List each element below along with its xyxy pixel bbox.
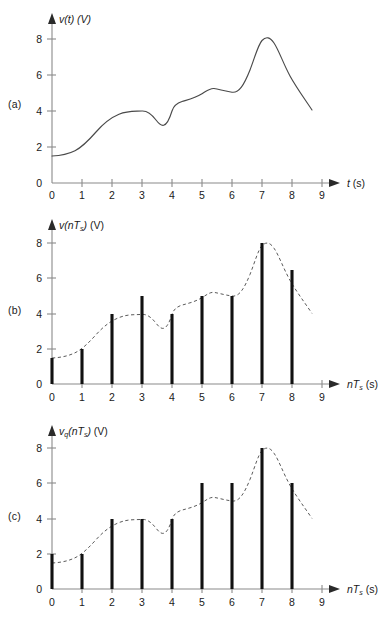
analog-signal-curve <box>52 38 312 156</box>
y-ticklabel-2: 2 <box>36 141 42 153</box>
x-ticklabel-8: 8 <box>289 189 295 201</box>
x-axis-arrow <box>329 179 340 187</box>
x-ticklabel-2: 2 <box>109 391 115 403</box>
panel-c: (c) 0 <box>0 412 390 621</box>
panel-b-x-ticklabels: 0 1 2 3 4 5 6 7 8 9 <box>49 391 325 403</box>
y-ticklabel-6: 6 <box>36 272 42 284</box>
panel-a: (a) <box>0 0 390 208</box>
y-axis-arrow <box>48 219 56 230</box>
x-ticklabel-0: 0 <box>49 189 55 201</box>
x-ticklabel-5: 5 <box>199 596 205 608</box>
y-ticklabel-8: 8 <box>36 442 42 454</box>
x-ticklabel-0: 0 <box>49 596 55 608</box>
x-ticklabel-0: 0 <box>49 391 55 403</box>
x-ticklabel-9: 9 <box>319 391 325 403</box>
panel-c-x-ticklabels: 0 1 2 3 4 5 6 7 8 9 <box>49 596 325 608</box>
x-ticklabel-2: 2 <box>109 189 115 201</box>
y-ticklabel-4: 4 <box>36 105 42 117</box>
x-ticklabel-2: 2 <box>109 596 115 608</box>
y-ticklabel-6: 6 <box>36 477 42 489</box>
panel-c-x-axis-title: nTs (s) <box>347 583 378 596</box>
x-ticklabel-6: 6 <box>229 189 235 201</box>
y-ticklabel-4: 4 <box>36 513 42 525</box>
panel-b-y-axis-title: v(nTs) (V) <box>59 219 104 232</box>
x-axis-arrow <box>329 380 340 388</box>
x-ticklabel-4: 4 <box>169 391 175 403</box>
x-ticklabel-1: 1 <box>79 189 85 201</box>
x-ticklabel-7: 7 <box>259 391 265 403</box>
panel-a-x-axis-title: t (s) <box>347 177 365 189</box>
x-ticklabel-3: 3 <box>139 189 145 201</box>
panel-c-y-ticklabels: 0 2 4 6 8 <box>36 442 42 595</box>
y-axis-arrow <box>48 13 56 24</box>
x-ticklabel-5: 5 <box>199 391 205 403</box>
y-ticklabel-8: 8 <box>36 237 42 249</box>
panel-c-chart: 0 2 4 6 8 0 1 2 3 4 5 6 7 8 9 vq(nTs) (V… <box>0 412 390 621</box>
panel-b-x-axis-title: nTs (s) <box>347 378 378 391</box>
x-ticklabel-8: 8 <box>289 596 295 608</box>
x-ticklabel-9: 9 <box>319 189 325 201</box>
y-ticklabel-2: 2 <box>36 343 42 355</box>
panel-b-chart: 0 2 4 6 8 0 1 2 3 4 5 6 7 8 9 v(nTs) (V)… <box>0 206 390 414</box>
y-axis-arrow <box>48 425 56 436</box>
x-ticklabel-7: 7 <box>259 189 265 201</box>
y-ticklabel-0: 0 <box>36 378 42 390</box>
y-ticklabel-0: 0 <box>36 177 42 189</box>
y-ticklabel-8: 8 <box>36 33 42 45</box>
panel-a-y-ticklabels: 0 2 4 6 8 <box>36 33 42 189</box>
reference-analog-curve <box>52 243 312 358</box>
y-ticklabel-2: 2 <box>36 548 42 560</box>
panel-b-axes <box>47 219 340 388</box>
y-ticklabel-6: 6 <box>36 69 42 81</box>
x-ticklabel-4: 4 <box>169 596 175 608</box>
panel-b: (b) 0 <box>0 206 390 414</box>
x-ticklabel-1: 1 <box>79 391 85 403</box>
x-ticklabel-6: 6 <box>229 391 235 403</box>
reference-analog-curve <box>52 448 312 563</box>
x-axis-arrow <box>329 585 340 593</box>
x-ticklabel-5: 5 <box>199 189 205 201</box>
x-ticklabel-7: 7 <box>259 596 265 608</box>
panel-a-axes <box>47 13 340 187</box>
panel-b-y-ticklabels: 0 2 4 6 8 <box>36 237 42 390</box>
x-ticklabel-3: 3 <box>139 391 145 403</box>
x-ticklabel-3: 3 <box>139 596 145 608</box>
y-ticklabel-4: 4 <box>36 308 42 320</box>
figure-sampling-quantization: (a) <box>0 0 390 621</box>
x-ticklabel-9: 9 <box>319 596 325 608</box>
panel-a-chart: 0 2 4 6 8 0 1 2 3 4 5 6 7 8 9 v(t) (V) t… <box>0 0 390 208</box>
x-ticklabel-4: 4 <box>169 189 175 201</box>
panel-c-axes <box>47 425 340 593</box>
x-ticklabel-6: 6 <box>229 596 235 608</box>
panel-a-x-ticklabels: 0 1 2 3 4 5 6 7 8 9 <box>49 189 325 201</box>
x-ticklabel-1: 1 <box>79 596 85 608</box>
panel-a-y-axis-title: v(t) (V) <box>59 13 91 25</box>
y-ticklabel-0: 0 <box>36 583 42 595</box>
panel-c-y-axis-title: vq(nTs) (V) <box>59 425 108 439</box>
x-ticklabel-8: 8 <box>289 391 295 403</box>
